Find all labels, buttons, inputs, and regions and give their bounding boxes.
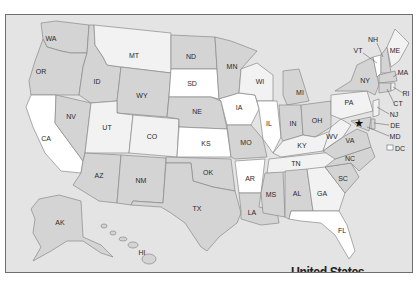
state-label-dc: DC (395, 145, 405, 152)
state-label-nd: ND (186, 53, 196, 60)
state-label-ms: MS (266, 191, 277, 198)
state-label-hi: HI (139, 249, 146, 256)
state-label-ny: NY (360, 77, 370, 84)
state-label-or: OR (36, 68, 47, 75)
state-AK[interactable] (31, 195, 113, 261)
us-map: ★ WAORCANVIDMTWYUTCOAZNMNDSDNEKSOKTXMNIA… (6, 15, 413, 273)
state-label-wi: WI (256, 78, 265, 85)
map-title: United States (291, 263, 364, 273)
state-label-ne: NE (192, 108, 202, 115)
state-label-ia: IA (236, 104, 243, 111)
state-label-mn: MN (227, 63, 238, 70)
state-NY[interactable] (335, 57, 379, 95)
state-label-ct: CT (393, 100, 403, 107)
state-MI[interactable] (283, 69, 309, 105)
state-NJ[interactable] (373, 99, 379, 117)
dc-box-icon (387, 145, 393, 150)
state-label-wv: WV (326, 133, 338, 140)
state-label-sd: SD (187, 80, 197, 87)
state-label-al: AL (293, 190, 302, 197)
state-label-nj: NJ (390, 111, 399, 118)
state-label-co: CO (147, 133, 158, 140)
state-label-nv: NV (66, 113, 76, 120)
state-label-vt: VT (354, 47, 364, 54)
state-label-ar: AR (245, 175, 255, 182)
state-label-wa: WA (45, 35, 56, 42)
state-ND[interactable] (171, 35, 217, 69)
state-label-az: AZ (95, 172, 105, 179)
state-label-ks: KS (201, 140, 211, 147)
state-label-tx: TX (193, 205, 202, 212)
state-label-ca: CA (41, 135, 51, 142)
state-label-me: ME (390, 47, 401, 54)
state-label-oh: OH (312, 117, 323, 124)
state-label-in: IN (290, 120, 297, 127)
state-label-id: ID (94, 78, 101, 85)
state-label-nm: NM (136, 177, 147, 184)
state-label-mo: MO (240, 139, 252, 146)
state-label-ri: RI (403, 90, 410, 97)
state-HI[interactable] (101, 224, 156, 264)
state-label-la: LA (248, 209, 257, 216)
state-label-sc: SC (338, 175, 348, 182)
state-label-pa: PA (345, 99, 354, 106)
state-label-ma: MA (398, 69, 409, 76)
state-label-mt: MT (129, 52, 140, 59)
state-label-nh: NH (368, 36, 378, 43)
state-label-va: VA (346, 137, 355, 144)
state-label-mi: MI (296, 89, 304, 96)
state-label-ga: GA (317, 190, 327, 197)
star-icon: ★ (354, 117, 364, 129)
state-label-il: IL (266, 120, 272, 127)
state-label-de: DE (390, 122, 400, 129)
map-frame: ★ WAORCANVIDMTWYUTCOAZNMNDSDNEKSOKTXMNIA… (5, 14, 413, 273)
state-label-fl: FL (338, 227, 346, 234)
state-label-ak: AK (55, 219, 65, 226)
state-FL[interactable] (289, 211, 355, 259)
state-label-ut: UT (102, 124, 112, 131)
state-label-wy: WY (136, 92, 148, 99)
state-label-nc: NC (345, 155, 355, 162)
state-label-ky: KY (297, 142, 307, 149)
state-CT[interactable] (379, 83, 391, 93)
state-DE[interactable] (371, 119, 375, 129)
state-label-ok: OK (203, 169, 213, 176)
state-label-tn: TN (291, 160, 300, 167)
state-label-md: MD (390, 133, 401, 140)
